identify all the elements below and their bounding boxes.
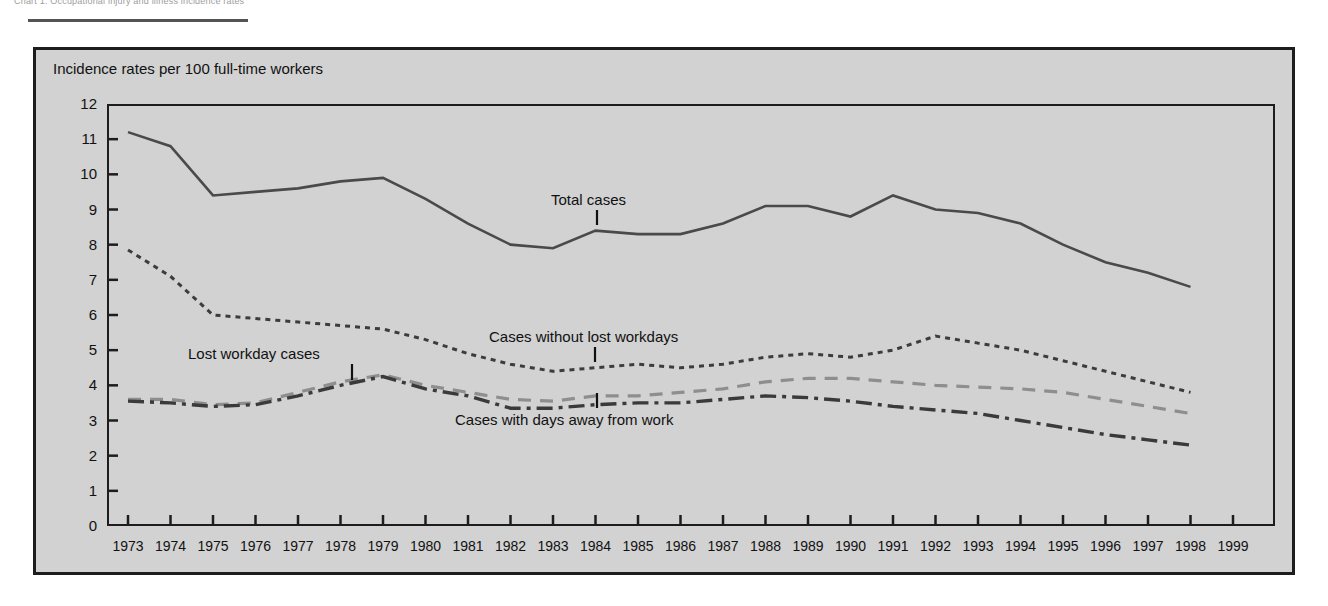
series-lines — [128, 132, 1191, 445]
x-tick-label: 1989 — [785, 538, 831, 554]
y-tick-label: 7 — [71, 271, 97, 288]
x-tick-label: 1977 — [275, 538, 321, 554]
x-tick-label: 1990 — [828, 538, 874, 554]
y-tick-label: 3 — [71, 412, 97, 429]
y-tick-label: 2 — [71, 447, 97, 464]
x-tick-label: 1982 — [488, 538, 534, 554]
x-tick-label: 1984 — [573, 538, 619, 554]
annotation-total-cases: Total cases — [551, 191, 626, 208]
annotation-cases-without-lost-workdays: Cases without lost workdays — [489, 328, 678, 345]
x-tick-label: 1991 — [870, 538, 916, 554]
x-tick-label: 1998 — [1168, 538, 1214, 554]
y-tick-label: 8 — [71, 236, 97, 253]
y-tick-label: 10 — [71, 165, 97, 182]
x-tick-label: 1993 — [955, 538, 1001, 554]
x-tick-label: 1983 — [530, 538, 576, 554]
x-tick-label: 1994 — [998, 538, 1044, 554]
x-tick-label: 1999 — [1210, 538, 1256, 554]
y-tick-label: 4 — [71, 376, 97, 393]
x-tick-label: 1979 — [360, 538, 406, 554]
y-tick-label: 6 — [71, 306, 97, 323]
y-tick-label: 0 — [71, 517, 97, 534]
x-tick-label: 1988 — [743, 538, 789, 554]
y-tick-label: 1 — [71, 482, 97, 499]
x-tick-label: 1997 — [1125, 538, 1171, 554]
annotation-lost-workday-cases: Lost workday cases — [188, 345, 320, 362]
y-tick-label: 9 — [71, 201, 97, 218]
x-tick-label: 1974 — [148, 538, 194, 554]
x-tick-label: 1987 — [700, 538, 746, 554]
x-tick-label: 1980 — [403, 538, 449, 554]
y-tick-label: 11 — [71, 130, 97, 147]
x-tick-label: 1973 — [105, 538, 151, 554]
chart-canvas — [0, 0, 1328, 606]
series-line — [128, 132, 1191, 287]
x-tick-label: 1992 — [913, 538, 959, 554]
x-tick-label: 1996 — [1083, 538, 1129, 554]
y-tick-label: 12 — [71, 95, 97, 112]
x-tick-label: 1978 — [318, 538, 364, 554]
x-tick-label: 1985 — [615, 538, 661, 554]
x-tick-label: 1986 — [658, 538, 704, 554]
annotation-cases-with-days-away: Cases with days away from work — [455, 411, 673, 428]
y-tick-label: 5 — [71, 341, 97, 358]
x-tick-label: 1975 — [190, 538, 236, 554]
x-tick-label: 1976 — [233, 538, 279, 554]
x-tick-label: 1981 — [445, 538, 491, 554]
series-line — [128, 375, 1191, 414]
x-tick-label: 1995 — [1040, 538, 1086, 554]
series-line — [128, 250, 1191, 392]
